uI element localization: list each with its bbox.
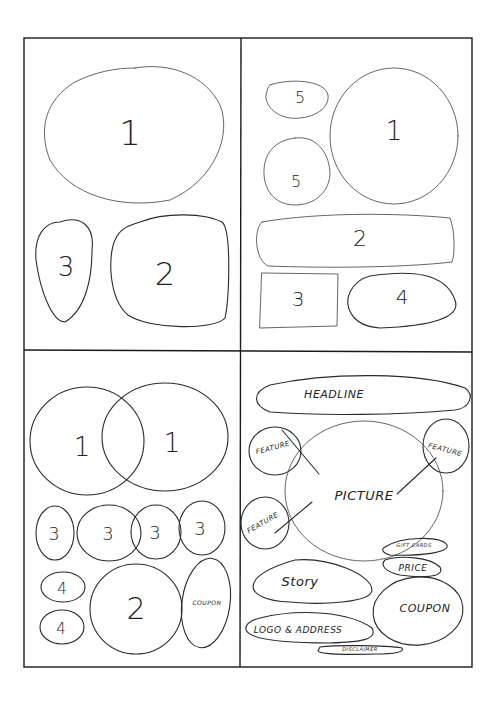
label-tl-1: 1 (119, 113, 141, 153)
shape-tr-2: 2 (256, 214, 454, 267)
label-br-logo-address: LOGO & ADDRESS (254, 625, 343, 635)
label-br-story: Story (282, 574, 319, 589)
label-tr-3: 3 (292, 287, 305, 311)
label-bl-1a: 1 (74, 432, 91, 462)
shape-bl-3a: 3 (36, 506, 74, 560)
shape-br-logo: LOGO & ADDRESS (246, 613, 373, 643)
shape-br-picture: PICTURE (285, 421, 443, 561)
shape-br-coupon: COUPON (370, 573, 466, 649)
shape-bl-4a: 4 (41, 572, 85, 602)
panel-bottom-right: HEADLINE PICTURE FEATURE FEATURE FEATURE… (241, 376, 470, 655)
panel-top-right: 5 5 1 2 3 4 (256, 68, 458, 328)
label-br-coupon: COUPON (400, 602, 451, 615)
label-tr-5b: 5 (291, 172, 301, 191)
label-tr-5a: 5 (295, 88, 305, 107)
sketch-canvas: 1 3 2 5 5 1 2 3 (0, 0, 499, 702)
label-bl-3a: 3 (48, 523, 59, 544)
label-bl-3c: 3 (149, 522, 160, 543)
shape-tl-3: 3 (36, 220, 93, 322)
label-br-picture: PICTURE (335, 488, 394, 503)
shape-br-headline: HEADLINE (257, 376, 471, 415)
shape-br-feature-3: FEATURE (241, 497, 312, 549)
label-bl-3d: 3 (194, 518, 205, 539)
shape-br-feature-1: FEATURE (249, 427, 319, 475)
label-br-feature-1: FEATURE (255, 440, 291, 457)
shape-br-giftcards: GIFT CARDS (383, 538, 447, 555)
shape-tl-1: 1 (44, 67, 223, 203)
label-tr-4: 4 (396, 285, 409, 309)
label-bl-3b: 3 (102, 523, 113, 544)
label-tl-3: 3 (58, 252, 75, 282)
panel-grid (24, 38, 472, 667)
label-br-price: PRICE (399, 563, 428, 573)
shape-bl-3c: 3 (131, 505, 181, 559)
shape-br-disclaimer: DISCLAIMER (318, 646, 403, 655)
shape-bl-1b: 1 (102, 383, 228, 491)
label-bl-2: 2 (126, 591, 145, 626)
shape-tr-3: 3 (260, 273, 338, 328)
label-bl-1b: 1 (164, 428, 181, 458)
label-br-feature-3: FEATURE (246, 511, 280, 535)
label-br-headline: HEADLINE (304, 388, 364, 401)
shape-tr-5a: 5 (266, 81, 328, 118)
shape-br-price: PRICE (383, 557, 441, 576)
shape-tr-5b: 5 (264, 138, 330, 205)
shape-bl-4b: 4 (40, 610, 84, 644)
label-bl-4b: 4 (56, 620, 66, 638)
label-tr-2: 2 (353, 226, 367, 251)
outer-frame (24, 38, 472, 667)
shape-tl-2: 2 (111, 215, 229, 327)
shape-tr-1: 1 (330, 68, 458, 204)
shape-bl-3d: 3 (179, 501, 225, 555)
label-tl-2: 2 (155, 255, 175, 293)
panel-bottom-left: 1 1 3 3 3 3 4 4 (30, 383, 236, 654)
label-br-giftcards: GIFT CARDS (396, 542, 432, 548)
label-br-disclaimer: DISCLAIMER (342, 646, 378, 652)
shape-br-story: Story (253, 560, 372, 604)
shape-bl-coupon: COUPON (176, 555, 236, 651)
shape-bl-1a: 1 (30, 387, 144, 495)
label-bl-coupon: COUPON (192, 599, 221, 606)
shape-bl-2: 2 (90, 564, 182, 654)
label-bl-4a: 4 (57, 580, 67, 598)
label-tr-1: 1 (386, 116, 403, 146)
shape-tr-4: 4 (348, 273, 456, 328)
panel-top-left: 1 3 2 (36, 67, 229, 327)
horizontal-divider (24, 350, 472, 352)
vertical-divider (240, 38, 241, 667)
